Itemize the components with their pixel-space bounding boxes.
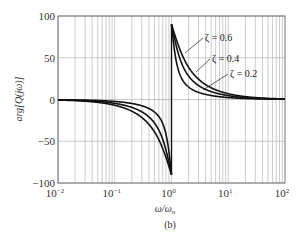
y-tick-label: −50: [38, 135, 56, 147]
figure-caption: (b): [164, 219, 176, 231]
annotation-arrow: [196, 59, 210, 72]
annotation-arrow: [185, 38, 203, 53]
phase-plot: ζ = 0.6ζ = 0.4ζ = 0.2 100500−50−100 10−2…: [0, 0, 307, 237]
x-tick-label: 101: [218, 187, 233, 199]
y-axis-label: arg[Q(jω)]: [13, 76, 25, 121]
x-tick-labels: 10−210−1100101102: [46, 187, 290, 199]
x-tick-label: 102: [275, 187, 290, 199]
x-tick-label: 10−1: [103, 187, 122, 199]
y-tick-label: 100: [39, 10, 56, 22]
y-tick-labels: 100500−50−100: [32, 10, 55, 189]
x-tick-label: 100: [161, 187, 176, 199]
x-tick-label: 10−2: [46, 187, 65, 199]
annotations: ζ = 0.6ζ = 0.4ζ = 0.2: [185, 32, 257, 90]
zeta-label: ζ = 0.6: [205, 32, 232, 44]
zeta-label: ζ = 0.2: [230, 68, 257, 80]
y-tick-label: 50: [44, 52, 56, 64]
y-tick-label: 0: [50, 94, 56, 106]
x-axis-label: ω/ωn: [155, 203, 176, 216]
zeta-label: ζ = 0.4: [212, 53, 239, 65]
